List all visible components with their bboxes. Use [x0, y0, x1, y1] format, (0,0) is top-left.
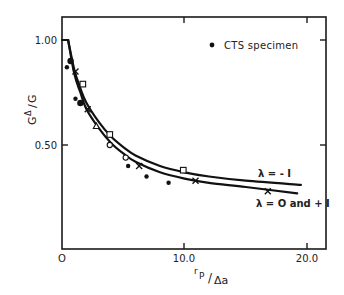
x-tick-label-10: 10.0	[173, 253, 195, 264]
y-tick-label-0-50: 0.50	[35, 140, 57, 151]
curve-lambda-minus-one	[62, 40, 301, 185]
data-point-square	[107, 132, 113, 138]
data-point-triangle	[93, 123, 99, 129]
data-point-dot	[126, 164, 130, 168]
data-point-dot	[166, 181, 170, 185]
y-axis-label-slash: /	[26, 104, 39, 108]
data-point-dot	[73, 97, 77, 101]
x-axis-label-den: Δa	[214, 274, 228, 287]
data-point-circle	[107, 142, 112, 147]
chart: 1.00 0.50 O 10.0 20.0 G Δ / G r P / Δa C…	[0, 0, 344, 295]
y-axis-label-den: G	[26, 94, 39, 103]
data-point-dot	[77, 100, 83, 106]
x-axis-label-sub: P	[199, 271, 205, 281]
annotation-lambda-zero-plus-one: λ = O and + I	[256, 198, 330, 209]
data-point-square	[80, 81, 86, 87]
x-tick-label-0: O	[58, 253, 66, 264]
x-axis-label-slash: /	[208, 271, 213, 285]
legend: CTS specimen	[210, 40, 299, 51]
y-axis-label-sup: Δ	[24, 110, 33, 116]
data-point-dot	[65, 65, 69, 69]
y-tick-label-1-00: 1.00	[35, 35, 57, 46]
annotation-lambda-minus-one: λ = - I	[258, 168, 291, 179]
y-axis-label-num: G	[26, 116, 39, 125]
data-point-circle	[123, 155, 128, 160]
data-point-dot	[67, 58, 73, 64]
data-point-dot	[144, 174, 148, 178]
x-axis-label: r P / Δa	[194, 266, 228, 287]
x-axis-label-num: r	[194, 266, 198, 276]
legend-dot-icon	[210, 43, 215, 48]
data-point-square	[180, 167, 186, 173]
legend-label: CTS specimen	[224, 40, 298, 51]
y-axis-label: G Δ / G	[24, 94, 39, 125]
x-tick-label-20: 20.0	[296, 253, 318, 264]
